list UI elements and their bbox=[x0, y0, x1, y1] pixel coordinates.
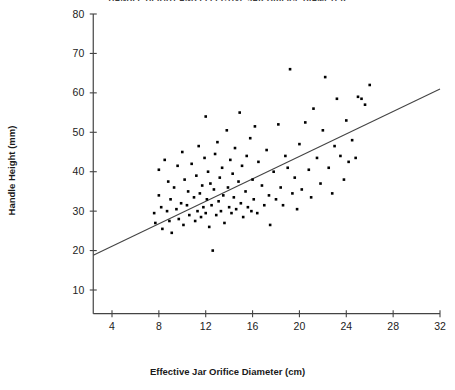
plot-area: 102030405060708048121620242832 bbox=[0, 0, 455, 390]
data-point bbox=[249, 137, 252, 140]
data-point bbox=[250, 210, 253, 213]
data-point bbox=[345, 119, 348, 122]
data-point bbox=[336, 97, 339, 100]
data-point bbox=[304, 121, 307, 124]
data-point bbox=[190, 163, 193, 166]
data-point bbox=[247, 206, 250, 209]
data-point bbox=[169, 198, 172, 201]
data-point bbox=[213, 188, 216, 191]
data-point bbox=[220, 210, 223, 213]
data-point bbox=[331, 192, 334, 195]
data-point bbox=[261, 184, 264, 187]
data-point bbox=[170, 232, 173, 235]
y-axis-tick-label: 70 bbox=[73, 47, 85, 59]
x-axis-tick-label: 20 bbox=[294, 320, 306, 332]
data-point bbox=[347, 161, 350, 164]
data-point bbox=[229, 159, 232, 162]
data-point bbox=[275, 198, 278, 201]
data-point bbox=[357, 96, 360, 99]
x-axis-tick-label: 16 bbox=[247, 320, 259, 332]
data-point bbox=[234, 147, 237, 150]
data-point bbox=[203, 157, 206, 160]
data-point bbox=[166, 210, 169, 213]
data-point bbox=[206, 198, 209, 201]
data-point bbox=[188, 214, 191, 217]
data-point bbox=[279, 186, 282, 189]
data-point bbox=[208, 226, 211, 229]
data-point bbox=[254, 125, 257, 128]
y-axis-tick-label: 10 bbox=[73, 284, 85, 296]
data-point bbox=[277, 123, 280, 126]
data-point bbox=[163, 159, 166, 162]
data-point bbox=[158, 168, 161, 171]
x-axis-tick-label: 28 bbox=[387, 320, 399, 332]
data-point bbox=[298, 143, 301, 146]
data-point bbox=[158, 194, 161, 197]
data-point bbox=[300, 188, 303, 191]
data-point bbox=[351, 139, 354, 142]
data-point bbox=[160, 206, 163, 209]
data-point bbox=[181, 151, 184, 154]
data-point bbox=[227, 186, 230, 189]
data-point bbox=[368, 84, 371, 87]
data-points-group bbox=[153, 68, 371, 252]
data-point bbox=[327, 166, 330, 169]
tick-labels-group: 102030405060708048121620242832 bbox=[73, 8, 446, 332]
y-axis-tick-label: 30 bbox=[73, 205, 85, 217]
data-point bbox=[154, 222, 157, 225]
axes-group bbox=[90, 14, 440, 317]
data-point bbox=[217, 200, 220, 203]
data-point bbox=[222, 194, 225, 197]
x-axis-title: Effective Jar Orifice Diameter (cm) bbox=[0, 366, 455, 377]
data-point bbox=[319, 182, 322, 185]
data-point bbox=[177, 218, 180, 221]
data-point bbox=[186, 204, 189, 207]
data-point bbox=[193, 196, 196, 199]
data-point bbox=[207, 170, 210, 173]
data-point bbox=[263, 204, 266, 207]
data-point bbox=[339, 155, 342, 158]
data-point bbox=[310, 196, 313, 199]
y-axis-tick-label: 20 bbox=[73, 244, 85, 256]
data-point bbox=[245, 155, 248, 158]
data-point bbox=[235, 208, 238, 211]
data-point bbox=[291, 192, 294, 195]
data-point bbox=[324, 76, 327, 79]
data-point bbox=[175, 208, 178, 211]
data-point bbox=[228, 206, 231, 209]
data-point bbox=[240, 202, 243, 205]
data-point bbox=[238, 111, 241, 114]
regression-line bbox=[93, 89, 440, 255]
data-point bbox=[316, 157, 319, 160]
x-axis-tick-label: 4 bbox=[109, 320, 115, 332]
x-axis-tick-label: 8 bbox=[156, 320, 162, 332]
data-point bbox=[204, 115, 207, 118]
data-point bbox=[233, 196, 236, 199]
data-point bbox=[214, 153, 217, 156]
data-point bbox=[265, 149, 268, 152]
data-point bbox=[244, 190, 247, 193]
data-point bbox=[333, 145, 336, 148]
data-point bbox=[210, 204, 213, 207]
y-axis-title: Handle Height (mm) bbox=[6, 106, 17, 236]
y-axis-tick-label: 40 bbox=[73, 165, 85, 177]
data-point bbox=[180, 202, 183, 205]
data-point bbox=[221, 166, 224, 169]
data-point bbox=[195, 174, 198, 177]
x-axis-tick-label: 32 bbox=[434, 320, 446, 332]
data-point bbox=[308, 168, 311, 171]
data-point bbox=[176, 165, 179, 168]
data-point bbox=[161, 228, 164, 231]
data-point bbox=[251, 178, 254, 181]
scatter-plot-figure: HANDLE HEIGHT AND EFFECTIVE JAR ORIFICE … bbox=[0, 0, 455, 390]
data-point bbox=[199, 192, 202, 195]
data-point bbox=[269, 224, 272, 227]
data-point bbox=[242, 216, 245, 219]
data-point bbox=[187, 190, 190, 193]
data-point bbox=[226, 129, 229, 132]
data-point bbox=[211, 249, 214, 252]
data-point bbox=[231, 172, 234, 175]
data-point bbox=[200, 216, 203, 219]
data-point bbox=[204, 212, 207, 215]
data-point bbox=[343, 178, 346, 181]
